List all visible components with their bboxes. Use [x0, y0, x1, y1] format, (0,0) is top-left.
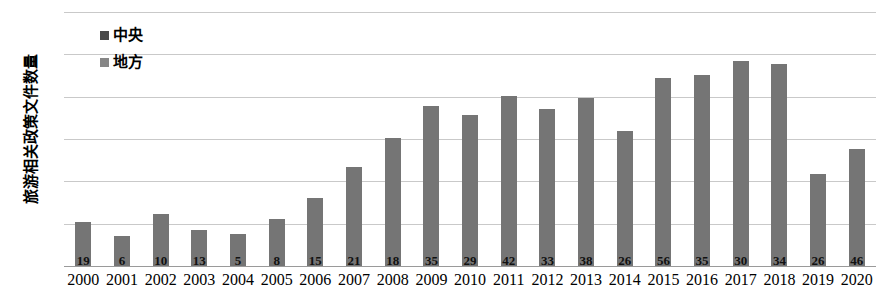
bar-group: 26: [799, 12, 838, 266]
bar-group: 35: [412, 12, 451, 266]
bar-value-label-central: 38: [580, 254, 593, 267]
x-axis-tick-label: 2015: [644, 270, 683, 289]
bar-value-label-central: 15: [309, 254, 322, 267]
x-axis-tick-label: 2002: [141, 270, 180, 289]
x-axis-tick-label: 2000: [64, 270, 103, 289]
bar-value-label-central: 29: [464, 254, 477, 267]
plot-area: 0100200300400500600 19610135815211835294…: [64, 12, 876, 266]
bar-group: 19: [64, 12, 103, 266]
bar-local: [655, 78, 671, 266]
legend-item: 中央: [100, 28, 143, 43]
bar-group: 33: [528, 12, 567, 266]
bar-value-label-central: 13: [193, 254, 206, 267]
bar-value-label-central: 21: [348, 254, 361, 267]
bar-value-label-central: 19: [77, 254, 90, 267]
bar-value-label-central: 35: [425, 254, 438, 267]
legend-label: 中央: [113, 28, 143, 43]
bar-value-label-central: 35: [696, 254, 709, 267]
bar-group: 46: [837, 12, 876, 266]
bar-value-label-central: 30: [734, 254, 747, 267]
bar-group: 13: [180, 12, 219, 266]
legend-label: 地方: [113, 55, 143, 70]
bar-group: 5: [219, 12, 258, 266]
bar-series-group: 196101358152118352942333826563530342646: [64, 12, 876, 266]
bar-local: [423, 106, 439, 266]
x-axis-tick-label: 2016: [683, 270, 722, 289]
bar-group: 10: [141, 12, 180, 266]
bar-group: 15: [296, 12, 335, 266]
bar-group: 56: [644, 12, 683, 266]
y-axis-title: 旅游相关政策文件数量: [19, 4, 40, 254]
bar-value-label-central: 10: [154, 254, 167, 267]
bar-value-label-central: 8: [273, 254, 280, 267]
legend-item: 地方: [100, 55, 143, 70]
chart-legend: 中央地方: [100, 28, 143, 70]
bar-group: 8: [257, 12, 296, 266]
x-axis-tick-label: 2018: [760, 270, 799, 289]
bar-value-label-central: 6: [119, 254, 126, 267]
bar-value-label-central: 46: [850, 254, 863, 267]
x-axis-tick-label: 2011: [489, 270, 528, 289]
x-axis-tick-label: 2008: [373, 270, 412, 289]
legend-swatch-icon: [100, 31, 109, 40]
bar-group: 38: [567, 12, 606, 266]
x-axis-tick-label: 2003: [180, 270, 219, 289]
bar-local: [617, 131, 633, 266]
bar-local: [771, 64, 787, 266]
bar-group: 29: [451, 12, 490, 266]
x-axis-tick-label: 2019: [799, 270, 838, 289]
x-axis-tick-label: 2001: [103, 270, 142, 289]
bar-local: [462, 115, 478, 266]
bar-value-label-central: 56: [657, 254, 670, 267]
x-axis-tick-label: 2014: [605, 270, 644, 289]
bar-local: [346, 167, 362, 266]
bar-group: 18: [373, 12, 412, 266]
bar-value-label-central: 33: [541, 254, 554, 267]
legend-swatch-icon: [100, 58, 109, 67]
bar-group: 26: [605, 12, 644, 266]
bar-local: [733, 61, 749, 266]
x-axis-tick-label: 2020: [837, 270, 876, 289]
x-axis-tick-label: 2012: [528, 270, 567, 289]
bar-value-label-central: 34: [773, 254, 786, 267]
bar-value-label-central: 26: [812, 254, 825, 267]
x-axis-tick-label: 2004: [219, 270, 258, 289]
x-axis-tick-label: 2013: [567, 270, 606, 289]
x-axis-tick-labels: 2000200120022003200420052006200720082009…: [64, 270, 876, 289]
x-axis-tick-label: 2007: [335, 270, 374, 289]
bar-local: [849, 149, 865, 266]
x-axis-tick-label: 2009: [412, 270, 451, 289]
bar-chart: 旅游相关政策文件数量 0100200300400500600 196101358…: [0, 0, 880, 293]
bar-value-label-central: 18: [386, 254, 399, 267]
bar-group: 30: [721, 12, 760, 266]
bar-group: 35: [683, 12, 722, 266]
bar-group: 21: [335, 12, 374, 266]
bar-local: [694, 75, 710, 266]
x-axis-tick-label: 2006: [296, 270, 335, 289]
bar-group: 34: [760, 12, 799, 266]
bar-value-label-central: 26: [618, 254, 631, 267]
x-axis-tick-label: 2017: [721, 270, 760, 289]
bar-group: 42: [489, 12, 528, 266]
bar-local: [385, 138, 401, 266]
bar-local: [539, 109, 555, 266]
x-axis-tick-label: 2010: [451, 270, 490, 289]
bar-value-label-central: 5: [235, 254, 242, 267]
bar-local: [578, 98, 594, 266]
bar-local: [501, 96, 517, 266]
x-axis-tick-label: 2005: [257, 270, 296, 289]
bar-value-label-central: 42: [502, 254, 515, 267]
